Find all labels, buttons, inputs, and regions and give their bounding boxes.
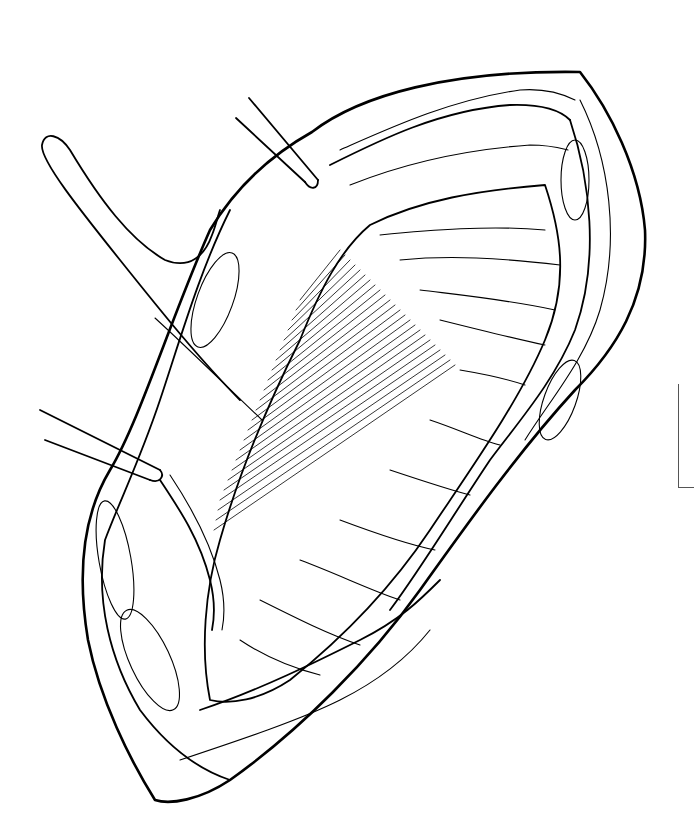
muscle-edge-right xyxy=(390,120,590,610)
retractor-top xyxy=(236,98,318,188)
muscle-bulge xyxy=(531,355,590,445)
exposed-tissue-boundary xyxy=(205,185,560,702)
exposed-tissue-hatching xyxy=(214,250,455,530)
surgical-drawing xyxy=(0,0,694,828)
muscle-edge-left xyxy=(102,210,230,780)
muscle-bulge xyxy=(181,247,249,353)
muscle-fold-line xyxy=(180,630,430,760)
muscle-bulge xyxy=(109,602,192,719)
corner-bracket-mark xyxy=(678,384,694,488)
muscle-edge-bottom xyxy=(200,580,440,710)
muscle-fold-line xyxy=(350,145,568,185)
fiber-lines xyxy=(240,228,560,675)
muscle-inner-line xyxy=(525,100,610,440)
illustration-canvas xyxy=(0,0,694,828)
